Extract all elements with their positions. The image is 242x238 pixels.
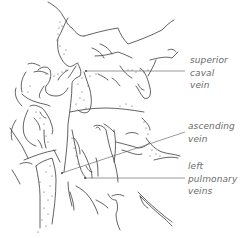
leader-lines [62,71,185,178]
label-left-pulmonary-veins: left pulmonary veins [188,160,237,198]
sketch-outlines [10,2,180,230]
label-line: left [188,160,237,173]
anatomical-drawing [0,0,242,238]
label-line: pulmonary [188,173,237,186]
label-ascending-vein: ascending vein [188,120,235,145]
label-line: caval [190,67,228,80]
label-superior-caval-vein: superior caval vein [190,54,228,92]
label-line: superior [190,54,228,67]
label-line: ascending [188,120,235,133]
label-line: vein [190,79,228,92]
label-line: veins [188,185,237,198]
stippling [27,21,160,232]
label-line: vein [188,133,235,146]
leader-ascending-vein [62,132,185,173]
